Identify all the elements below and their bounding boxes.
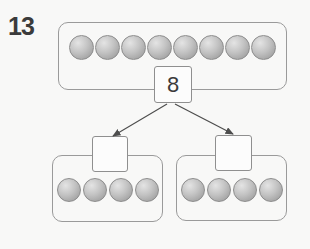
counter-ball bbox=[207, 178, 231, 202]
part-value-box-left[interactable] bbox=[92, 136, 129, 172]
counter-ball bbox=[181, 178, 205, 202]
counter-ball bbox=[121, 35, 146, 60]
counter-ball bbox=[135, 178, 159, 202]
counter-ball bbox=[57, 178, 81, 202]
counter-ball bbox=[199, 35, 224, 60]
counter-ball bbox=[225, 35, 250, 60]
counter-ball bbox=[251, 35, 276, 60]
counter-ball bbox=[147, 35, 172, 60]
counter-ball bbox=[109, 178, 133, 202]
whole-value-box: 8 bbox=[154, 66, 192, 103]
counter-ball bbox=[95, 35, 120, 60]
whole-counters-row bbox=[59, 23, 286, 60]
counter-ball bbox=[259, 178, 283, 202]
counter-ball bbox=[173, 35, 198, 60]
counter-ball bbox=[233, 178, 257, 202]
counter-ball bbox=[83, 178, 107, 202]
part-value-box-right[interactable] bbox=[215, 135, 252, 171]
arrow-left-icon bbox=[113, 104, 167, 136]
worksheet-page: 13 8 bbox=[0, 0, 310, 249]
problem-number: 13 bbox=[8, 12, 34, 41]
counter-ball bbox=[69, 35, 94, 60]
arrow-right-icon bbox=[175, 104, 233, 134]
